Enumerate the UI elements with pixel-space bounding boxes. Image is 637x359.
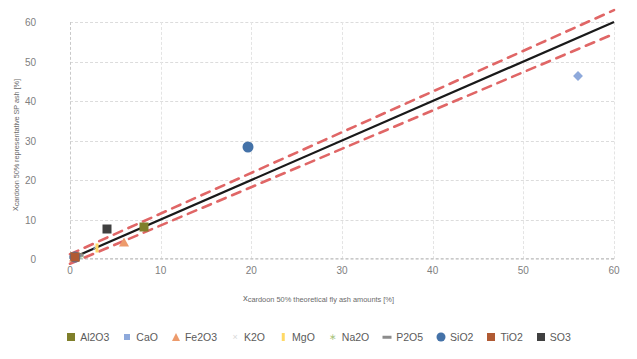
- legend-label: Al2O3: [80, 331, 109, 343]
- legend-label: MgO: [292, 331, 315, 343]
- legend-label: TiO2: [500, 331, 522, 343]
- legend-label: P2O5: [396, 331, 423, 343]
- y-tick-label: 20: [12, 175, 36, 186]
- legend-item-fe2o3[interactable]: Fe2O3: [171, 331, 217, 343]
- confidence-band-upper: [70, 10, 614, 254]
- plot-area: ××∗∗ 0102030405060 0102030405060: [70, 22, 614, 259]
- legend-item-na2o[interactable]: ∗Na2O: [328, 331, 369, 343]
- legend-label: CaO: [136, 331, 158, 343]
- confidence-band-lower: [70, 34, 614, 264]
- data-point-tio2: [70, 253, 79, 262]
- x-tick-label: 30: [324, 265, 360, 276]
- y-tick-label: 10: [12, 214, 36, 225]
- legend-marker-tio2-icon: [486, 332, 496, 342]
- x-tick-label: 40: [415, 265, 451, 276]
- confidence-band-group: [70, 10, 614, 264]
- legend-marker-cao-icon: [122, 332, 132, 342]
- gridline-horizontal: [70, 259, 614, 260]
- data-point-sio2: [242, 141, 253, 152]
- legend-marker-sio2-icon: [436, 332, 446, 342]
- legend-label: Na2O: [342, 331, 369, 343]
- gridline-vertical: [614, 22, 615, 259]
- chart-figure: xcardoon 50% representative SP ash [%] x…: [0, 0, 637, 359]
- trend-line: [70, 22, 614, 259]
- legend-label: K2O: [244, 331, 265, 343]
- chart-legend: Al2O3CaOFe2O3×K2OMgO∗Na2OP2O5SiO2TiO2SO3: [0, 331, 637, 343]
- legend-marker-p2o5-icon: [382, 332, 392, 342]
- y-tick-label: 50: [12, 56, 36, 67]
- x-tick-label: 60: [596, 265, 632, 276]
- y-tick-label: 60: [12, 17, 36, 28]
- x-axis-title-sub: cardoon 50% theoretical fly ash amounts …: [248, 295, 394, 304]
- y-axis-title-main: x: [9, 206, 20, 211]
- y-tick-label: 30: [12, 135, 36, 146]
- y-tick-label: 0: [12, 254, 36, 265]
- legend-item-tio2[interactable]: TiO2: [486, 331, 522, 343]
- legend-marker-al2o3-icon: [66, 332, 76, 342]
- series-lines-layer: [70, 22, 614, 259]
- x-tick-label: 0: [52, 265, 88, 276]
- legend-marker-fe2o3-icon: [171, 332, 181, 342]
- legend-marker-so3-icon: [536, 332, 546, 342]
- x-tick-label: 10: [143, 265, 179, 276]
- legend-marker-na2o-icon: ∗: [328, 332, 338, 342]
- legend-item-so3[interactable]: SO3: [536, 331, 571, 343]
- legend-item-k2o[interactable]: ×K2O: [230, 331, 265, 343]
- legend-item-sio2[interactable]: SiO2: [436, 331, 473, 343]
- y-tick-label: 40: [12, 96, 36, 107]
- legend-label: SiO2: [450, 331, 473, 343]
- legend-item-al2o3[interactable]: Al2O3: [66, 331, 109, 343]
- x-tick-label: 20: [233, 265, 269, 276]
- x-axis-title: xcardoon 50% theoretical fly ash amounts…: [0, 292, 637, 304]
- legend-item-p2o5[interactable]: P2O5: [382, 331, 423, 343]
- data-point-fe2o3: [119, 238, 129, 247]
- legend-item-cao[interactable]: CaO: [122, 331, 158, 343]
- legend-label: Fe2O3: [185, 331, 217, 343]
- data-point-mgo: [96, 243, 99, 252]
- legend-item-mgo[interactable]: MgO: [278, 331, 315, 343]
- data-point-so3: [103, 225, 112, 234]
- data-point-al2o3: [140, 223, 149, 232]
- legend-marker-k2o-icon: ×: [230, 332, 240, 342]
- legend-marker-mgo-icon: [278, 332, 288, 342]
- legend-label: SO3: [550, 331, 571, 343]
- x-tick-label: 50: [505, 265, 541, 276]
- trend-line-group: [70, 22, 614, 259]
